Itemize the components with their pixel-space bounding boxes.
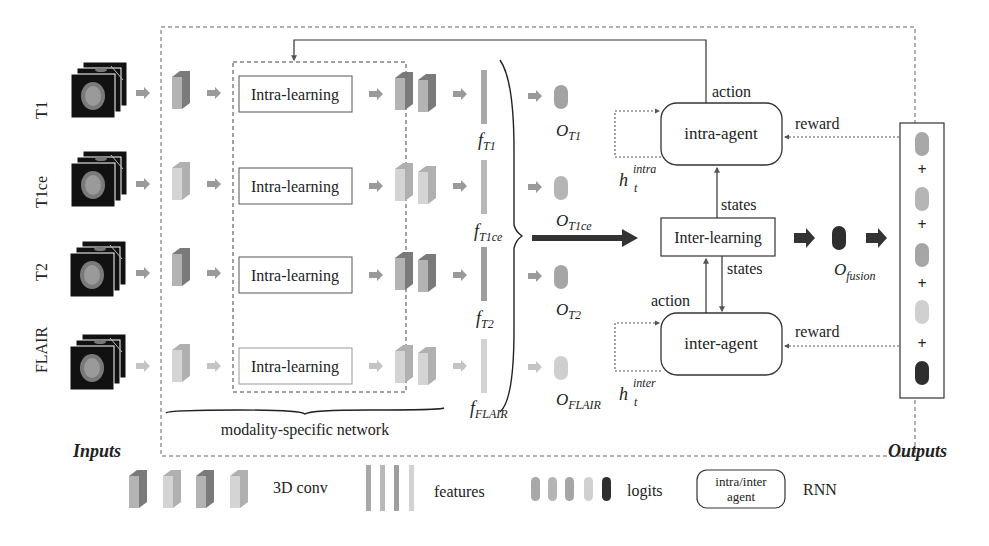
conv-pair-t2 [395, 252, 436, 292]
arrow-icon [453, 88, 467, 100]
svg-text:+: + [917, 335, 926, 352]
mri-image-t1 [71, 62, 127, 118]
conv-pair-t1ce [395, 163, 436, 204]
svg-text:agent: agent [727, 489, 756, 504]
conv-block-icon [172, 71, 190, 109]
arrow-icon [866, 228, 887, 248]
inter-action-label: action [651, 292, 690, 309]
logit-label-t1ce: OT1ce [556, 211, 592, 233]
svg-text:+: + [917, 161, 926, 178]
fusion-label: Ofusion [834, 260, 876, 283]
feature-bar-t2 [481, 247, 487, 301]
h-inter-sup: inter [633, 376, 656, 390]
arrow-icon [528, 90, 542, 102]
feature-label-t1: fT1 [478, 130, 496, 153]
arrow-icon [369, 180, 383, 192]
modality-specific-label: modality-specific network [221, 421, 389, 439]
reward-label-intra: reward [795, 115, 839, 132]
inter-learning-box: Inter-learning [661, 218, 775, 256]
svg-text:inter-agent: inter-agent [684, 334, 758, 353]
legend: 3D conv features logits intra/inter agen… [129, 465, 837, 511]
intra-learning-box-t1: Intra-learning [239, 76, 352, 112]
mri-image-t1ce [71, 151, 127, 207]
intra-learning-box-flair: Intra-learning [239, 348, 352, 384]
arrow-icon [528, 270, 542, 282]
conv-pair-flair [395, 345, 436, 385]
arrow-icon [453, 180, 467, 192]
intra-rnn-loop [615, 111, 661, 157]
arrow-icon [207, 267, 221, 279]
feature-label-t2: fT2 [476, 308, 494, 331]
feature-bar-t1ce [481, 160, 487, 214]
arrow-icon [207, 360, 221, 372]
svg-text:Inter-learning: Inter-learning [674, 229, 762, 247]
svg-text:Intra-learning: Intra-learning [251, 358, 339, 376]
outputs-stack: + + + + [900, 123, 944, 398]
legend-rnn-label: RNN [803, 481, 837, 498]
modality-specific-brace [166, 408, 444, 414]
modality-label-t1ce: T1ce [33, 176, 50, 208]
states-label-bottom: states [727, 260, 763, 277]
logit-flair [554, 356, 568, 380]
inputs-title: Inputs [72, 441, 121, 461]
arrow-icon [207, 178, 221, 190]
modality-label-t1: T1 [33, 101, 50, 119]
logit-t1 [554, 85, 568, 109]
arrow-icon [453, 360, 467, 372]
framework-diagram: T1 T1ce T2 FLAIR Intra-learning Intra-le… [0, 0, 989, 546]
legend-feature-icons [366, 465, 414, 511]
feature-label-t1ce: fT1ce [474, 221, 503, 244]
conv-block-icon [172, 344, 190, 382]
svg-text:intra-agent: intra-agent [684, 124, 758, 143]
svg-text:+: + [917, 275, 926, 292]
arrow-icon [207, 87, 221, 99]
h-intra-sup: intra [633, 162, 656, 176]
intra-learning-box-t2: Intra-learning [239, 257, 352, 293]
legend-features-label: features [434, 483, 485, 500]
h-intra-sub: t [634, 181, 638, 195]
conv-block-icon [172, 162, 190, 200]
mri-image-flair [70, 334, 126, 390]
legend-logit-icons [531, 477, 611, 501]
arrow-icon [794, 228, 815, 248]
arrow-icon [369, 269, 383, 281]
arrow-icon [528, 361, 542, 373]
arrow-icon [369, 360, 383, 372]
logit-label-flair: OFLAIR [556, 390, 602, 412]
legend-conv-icons [129, 470, 248, 508]
arrow-icon [136, 87, 150, 99]
outputs-title: Outputs [888, 441, 947, 461]
modality-label-t2: T2 [33, 263, 50, 281]
feature-brace [500, 60, 522, 412]
conv-block-icon [172, 248, 190, 286]
states-label-top: states [721, 196, 757, 213]
intra-agent-box: intra-agent [661, 103, 782, 165]
h-intra-label: h [619, 170, 628, 190]
svg-text:Intra-learning: Intra-learning [251, 178, 339, 196]
logit-label-t1: OT1 [556, 121, 581, 143]
inter-agent-box: inter-agent [661, 313, 782, 375]
arrow-icon [136, 178, 150, 190]
feature-bar-t1 [481, 70, 487, 124]
logit-t1ce [554, 176, 568, 200]
logit-t2 [554, 265, 568, 289]
inter-rnn-loop [615, 323, 661, 371]
legend-conv-label: 3D conv [273, 479, 328, 496]
arrow-icon [136, 267, 150, 279]
svg-text:Intra-learning: Intra-learning [251, 267, 339, 285]
conv-pair-t1 [395, 72, 436, 112]
svg-text:intra/inter: intra/inter [715, 474, 767, 489]
h-inter-label: h [619, 384, 628, 404]
reward-label-inter: reward [795, 323, 839, 340]
intra-learning-box-t1ce: Intra-learning [239, 168, 352, 204]
svg-text:+: + [917, 216, 926, 233]
legend-agent-icon: intra/inter agent [697, 470, 785, 508]
svg-text:Intra-learning: Intra-learning [251, 86, 339, 104]
legend-logits-label: logits [627, 482, 663, 500]
mri-image-t2 [70, 241, 126, 297]
feature-bar-flair [481, 339, 487, 393]
logit-fusion [832, 226, 846, 250]
modality-label-flair: FLAIR [33, 327, 50, 374]
arrow-icon [528, 181, 542, 193]
logit-label-t2: OT2 [556, 300, 581, 322]
